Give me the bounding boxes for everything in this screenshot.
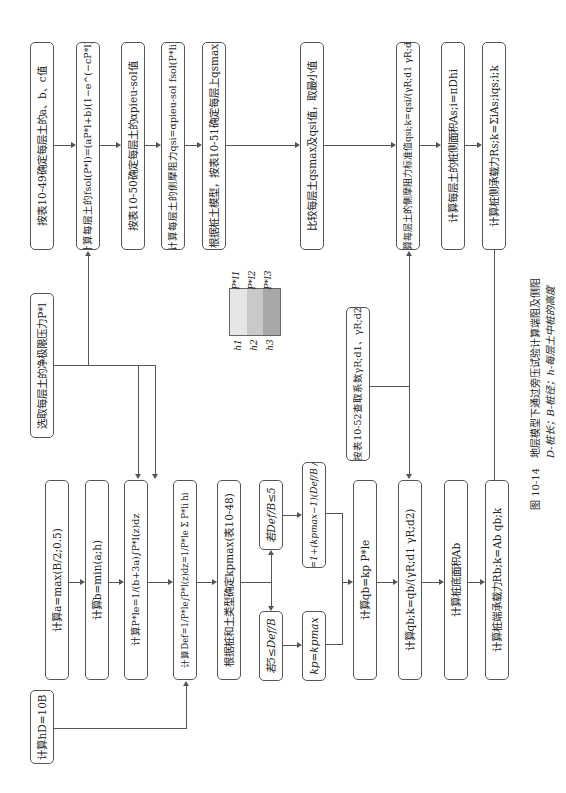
box-hd-calc: 计算hD=10B xyxy=(30,690,54,764)
connector xyxy=(54,145,72,146)
arrow-icon xyxy=(135,474,141,479)
connector xyxy=(342,513,343,645)
box-label: 比较每层土qsmax及qsi值，取最小值 xyxy=(307,61,318,231)
box-a-calc: 计算a=max(B/2;0.5) xyxy=(45,480,69,680)
arrow-icon xyxy=(477,142,482,148)
box-label: 计算Def=1/P*le∫P*l(z)dz=1/P*le Σ P*li hi xyxy=(181,492,190,667)
box-table-10-50-alpha: 按表10-50确定每层土的αpieu-sol值 xyxy=(121,42,145,250)
connector xyxy=(186,686,187,729)
arrow-icon xyxy=(268,550,274,555)
arrow-icon xyxy=(116,142,121,148)
connector xyxy=(197,582,213,583)
connector xyxy=(494,250,495,480)
legend-layer-2: h2 xyxy=(249,339,259,351)
box-qbk-calc: 计算qb;k=qb/(γR;d1 γR;d2) xyxy=(398,480,422,680)
box-label: 按表10-52查取系数γR;d1、γR;d2 xyxy=(353,307,363,461)
box-qb-calc: 计算qb=kp P*le xyxy=(353,480,377,680)
box-kpmax-table-10-48: 根据桩和土类型确定kpmax(表10-48) xyxy=(217,480,241,680)
connector xyxy=(377,582,394,583)
arrow-icon xyxy=(80,579,85,585)
arrow-icon xyxy=(85,251,91,256)
box-label: 计算hD=10B xyxy=(37,694,48,759)
arrow-icon xyxy=(71,142,76,148)
connector xyxy=(54,728,186,729)
soil-layer-legend xyxy=(229,288,281,336)
box-condition-shallow: 若Def/B≤5 xyxy=(259,480,283,550)
box-label: 根据桩土模型，按表10-51确定每层上qsmax xyxy=(209,44,220,249)
box-side-capacity: 计算桩侧承载力Rs;k=ΣiAs;iqs;i;k xyxy=(482,42,506,250)
arrow-icon xyxy=(197,142,202,148)
arrow-icon xyxy=(295,142,300,148)
arrow-icon xyxy=(183,681,189,686)
box-condition-deep: 若5≤Def/B xyxy=(259,611,283,681)
box-b-calc: 计算b=min(a;h) xyxy=(85,480,109,680)
arrow-icon xyxy=(406,251,412,256)
arrow-icon xyxy=(119,579,124,585)
box-label: 计算桩底面积Ab xyxy=(451,543,462,617)
connector xyxy=(100,145,117,146)
box-table-10-51-qsmax: 根据桩土模型，按表10-51确定每层上qsmax xyxy=(202,42,226,250)
connector xyxy=(326,644,342,645)
connector xyxy=(420,145,437,146)
box-label: 若Def/B≤5 xyxy=(266,487,277,542)
box-compare-min: 比较每层土qsmax及qsi值，取最小值 xyxy=(300,42,324,250)
box-def-calc: 计算Def=1/P*le∫P*l(z)dz=1/P*le Σ P*li hi xyxy=(173,480,197,680)
legend-layer-3: h3 xyxy=(265,339,275,351)
arrow-icon xyxy=(436,142,441,148)
connector xyxy=(409,256,410,476)
arrow-icon xyxy=(391,142,396,148)
box-select-net-limit-pressure: 选取每层土的净极限压力P*l xyxy=(30,293,54,438)
box-label: 计算桩侧承载力Rs;k=ΣiAs;iqs;i;k xyxy=(489,65,500,227)
box-label: kp=kpmax xyxy=(309,617,320,674)
box-label: 按表10-50确定每层土的αpieu-sol值 xyxy=(128,61,139,230)
arrow-icon xyxy=(156,142,161,148)
box-label: 计算P*le=1/(b+3a)∫P*l(z)dz xyxy=(131,514,141,647)
box-label: 计算每层土的桩侧面积As;i=πDhi xyxy=(448,69,459,223)
box-label: kp=1+(kpmax−1)(Def/B / 5) xyxy=(310,462,319,568)
connector xyxy=(148,582,169,583)
box-ple-calc: 计算P*le=1/(b+3a)∫P*l(z)dz xyxy=(124,480,148,680)
connector xyxy=(138,365,139,475)
box-base-area: 计算桩底面积Ab xyxy=(444,480,468,680)
figure-caption-note: D-桩长；B-桩径；h-每层土中桩的高度 xyxy=(542,286,557,458)
box-label: 选取每层土的净极限压力P*l xyxy=(37,303,48,429)
legend-pressure-3: P*l3 xyxy=(263,270,273,289)
figure-caption-title: 图 10-14 地层模型下通过旁压试验计算端阻及侧阻 xyxy=(527,278,542,510)
box-label: 计算每层土的侧摩阻力qsi=αpieu-sol fsol(P*li) xyxy=(168,42,178,250)
legend-layer-1: h1 xyxy=(233,339,243,351)
box-kp-shallow: kp=1+(kpmax−1)(Def/B / 5) xyxy=(302,462,326,568)
arrow-icon xyxy=(168,579,173,585)
box-label: 若5≤Def/B xyxy=(266,618,277,673)
connector xyxy=(88,256,89,366)
box-label: 计算b=min(a;h) xyxy=(92,540,103,620)
box-table-10-49-abc: 按表10-49确定每层土的a、b、c值 xyxy=(30,42,54,250)
connector xyxy=(155,365,156,475)
connector xyxy=(54,365,155,366)
connector xyxy=(226,145,296,146)
box-label: 计算qb;k=qb/(γR;d1 γR;d2) xyxy=(405,509,416,652)
legend-pressure-2: P*l2 xyxy=(247,270,257,289)
box-qsik-standard: 计算每层土的侧摩阻力标准值qsi;k=qsi/(γR;d1 γR;d2) xyxy=(396,42,420,250)
box-label: 根据桩和土类型确定kpmax(表10-48) xyxy=(224,493,235,667)
box-label: 计算每层土的fsol(P*l)=(aP*l+b)(1−e^(−cP*l)) xyxy=(83,42,93,250)
arrow-icon xyxy=(393,579,398,585)
connector xyxy=(324,145,392,146)
box-fsol-calc: 计算每层土的fsol(P*l)=(aP*l+b)(1−e^(−cP*l)) xyxy=(76,42,100,250)
box-label: 计算a=max(B/2;0.5) xyxy=(52,528,63,632)
connector xyxy=(271,555,272,607)
connector xyxy=(283,645,298,646)
box-label: 计算qb=kp P*le xyxy=(360,540,371,621)
arrow-icon xyxy=(212,579,217,585)
connector xyxy=(283,515,298,516)
box-label: 计算桩端承载力Rb;k=Ab qb;k xyxy=(492,508,503,652)
box-label: 按表10-49确定每层土的a、b、c值 xyxy=(37,66,48,225)
connector xyxy=(370,386,409,387)
box-kp-deep: kp=kpmax xyxy=(302,611,326,681)
arrow-icon xyxy=(480,579,485,585)
connector xyxy=(422,582,440,583)
arrow-icon xyxy=(406,474,412,479)
connector xyxy=(326,513,342,514)
arrow-icon xyxy=(152,474,158,479)
box-end-capacity: 计算桩端承载力Rb;k=Ab qb;k xyxy=(485,480,509,680)
box-qsi-calc: 计算每层土的侧摩阻力qsi=αpieu-sol fsol(P*li) xyxy=(161,42,185,250)
